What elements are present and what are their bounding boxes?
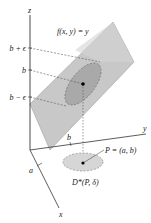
- point-on-plane: [81, 82, 85, 86]
- x-tick-label: a: [29, 166, 33, 175]
- z-tick-label-b: b: [22, 66, 26, 75]
- disk-label: D*(P, δ): [71, 178, 99, 187]
- y-tick-label: b: [67, 133, 71, 142]
- x-axis: [30, 150, 59, 208]
- x-axis-label: x: [58, 210, 63, 219]
- point-label: P = (a, b): [104, 146, 137, 155]
- epsilon-delta-diagram: z f(x, y) = y b + ϵ b b − ϵ y b P = (a, …: [0, 0, 151, 223]
- tick-a: [37, 163, 42, 166]
- z-tick-label-b-minus-eps: b − ϵ: [9, 93, 26, 102]
- z-axis-label: z: [27, 6, 32, 15]
- z-tick-label-b-plus-eps: b + ϵ: [9, 44, 26, 53]
- surface-label: f(x, y) = y: [57, 27, 89, 36]
- y-axis-label: y: [142, 124, 147, 133]
